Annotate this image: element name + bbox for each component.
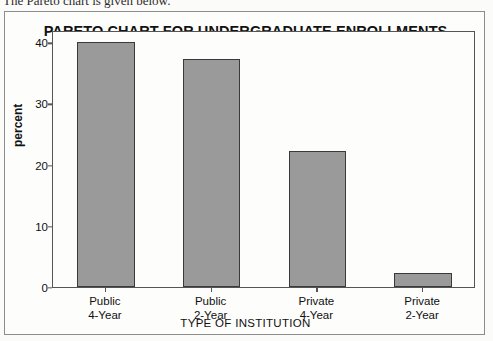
y-axis-tick-label: 30 [24, 98, 48, 110]
x-axis-category-label-line: Public [88, 294, 121, 308]
x-axis-category-label-line: Private [404, 294, 440, 308]
bar [394, 273, 452, 287]
x-axis-title: TYPE OF INSTITUTION [5, 317, 486, 329]
x-axis-category-label-line: Public [194, 294, 227, 308]
x-axis-tick-mark [422, 288, 423, 292]
y-axis-tick-labels: 010203040 [22, 31, 48, 288]
x-axis-tick-mark [105, 288, 106, 292]
x-axis-tick-mark [211, 288, 212, 292]
x-axis-tick-mark [316, 288, 317, 292]
caption-text: The Pareto chart is given below. [3, 0, 170, 9]
bars-layer [53, 32, 474, 287]
y-axis-tick-label: 0 [24, 282, 48, 294]
x-axis-category-label-line: Private [298, 294, 334, 308]
bar [77, 42, 135, 287]
y-axis-tick-label: 20 [24, 160, 48, 172]
chart-frame: PARETO CHART FOR UNDERGRADUATE ENROLLMEN… [4, 11, 485, 335]
plot-area [52, 31, 475, 288]
bar [289, 151, 347, 287]
y-axis-tick-label: 10 [24, 221, 48, 233]
scan-caption-strip: The Pareto chart is given below. [0, 0, 493, 11]
bar [183, 59, 241, 287]
y-axis-tick-label: 40 [24, 37, 48, 49]
